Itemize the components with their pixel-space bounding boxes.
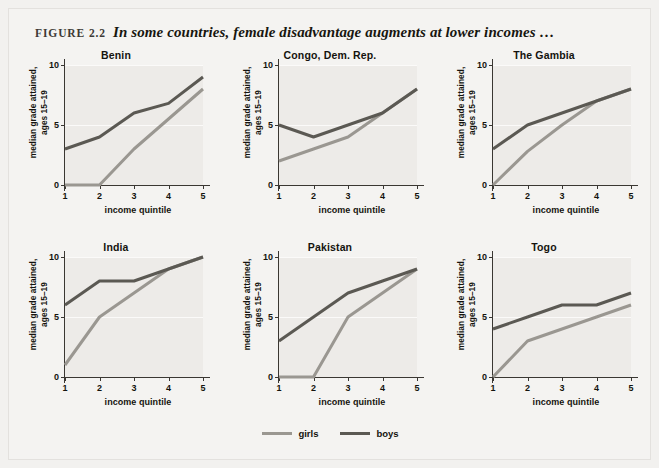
y-axis-title-line1: median grade attained, bbox=[242, 67, 252, 158]
series-line-boys bbox=[493, 89, 631, 149]
x-tick-label: 5 bbox=[414, 383, 419, 393]
plot-area: 051012345 bbox=[493, 65, 631, 185]
x-tick-label: 1 bbox=[62, 191, 67, 201]
x-tick-mark bbox=[597, 185, 598, 189]
x-tick-mark bbox=[597, 377, 598, 381]
x-tick-label: 2 bbox=[525, 383, 530, 393]
x-tick-mark bbox=[417, 185, 418, 189]
figure-card: FIGURE 2.2In some countries, female disa… bbox=[8, 8, 651, 460]
plot-area: 051012345 bbox=[65, 65, 203, 185]
legend-swatch-girls bbox=[262, 432, 292, 435]
x-axis-line bbox=[278, 185, 424, 186]
series-line-boys bbox=[65, 77, 203, 149]
x-tick-label: 5 bbox=[200, 383, 205, 393]
y-axis-title: median grade attained,ages 15–19 bbox=[456, 250, 477, 360]
x-tick-label: 3 bbox=[131, 191, 136, 201]
x-tick-label: 4 bbox=[594, 383, 599, 393]
series-line-boys bbox=[279, 269, 417, 341]
y-tick-label: 10 bbox=[477, 60, 487, 70]
y-tick-label: 0 bbox=[482, 180, 487, 190]
x-axis-line bbox=[492, 185, 638, 186]
y-tick-label: 5 bbox=[482, 120, 487, 130]
y-axis-title: median grade attained,ages 15–19 bbox=[242, 58, 263, 168]
x-tick-label: 3 bbox=[559, 191, 564, 201]
x-axis-title: income quintile bbox=[65, 205, 211, 215]
x-tick-label: 1 bbox=[490, 191, 495, 201]
y-axis-title-line1: median grade attained, bbox=[242, 259, 252, 350]
x-tick-label: 2 bbox=[311, 191, 316, 201]
series-line-boys bbox=[279, 89, 417, 137]
series-layer bbox=[279, 65, 417, 185]
x-tick-mark bbox=[562, 377, 563, 381]
y-axis-title-line2: ages 15–19 bbox=[38, 90, 48, 135]
y-tick-label: 5 bbox=[268, 120, 273, 130]
y-axis-title: median grade attained,ages 15–19 bbox=[28, 250, 49, 360]
y-axis-title: median grade attained,ages 15–19 bbox=[456, 58, 477, 168]
y-axis-title-line2: ages 15–19 bbox=[38, 282, 48, 327]
y-axis-title-line2: ages 15–19 bbox=[466, 90, 476, 135]
x-tick-mark bbox=[631, 377, 632, 381]
y-tick-label: 5 bbox=[482, 312, 487, 322]
y-tick-label: 0 bbox=[268, 372, 273, 382]
x-tick-mark bbox=[528, 185, 529, 189]
x-tick-label: 1 bbox=[276, 383, 281, 393]
x-tick-label: 5 bbox=[628, 383, 633, 393]
series-line-girls bbox=[65, 257, 203, 365]
y-axis-title: median grade attained,ages 15–19 bbox=[28, 58, 49, 168]
x-tick-mark bbox=[417, 377, 418, 381]
chart-panel-benin: Beninmedian grade attained,ages 15–19051… bbox=[9, 47, 223, 237]
legend-label: boys bbox=[376, 428, 398, 439]
x-tick-mark bbox=[383, 377, 384, 381]
x-tick-label: 3 bbox=[345, 383, 350, 393]
x-tick-label: 4 bbox=[380, 383, 385, 393]
panel-grid: Beninmedian grade attained,ages 15–19051… bbox=[9, 47, 652, 429]
x-axis-title: income quintile bbox=[279, 205, 425, 215]
x-tick-label: 5 bbox=[200, 191, 205, 201]
x-tick-label: 5 bbox=[414, 191, 419, 201]
series-layer bbox=[279, 257, 417, 377]
x-axis-title: income quintile bbox=[493, 397, 639, 407]
x-tick-mark bbox=[203, 185, 204, 189]
x-tick-label: 4 bbox=[166, 383, 171, 393]
legend-swatch-boys bbox=[340, 432, 370, 435]
y-tick-label: 10 bbox=[263, 60, 273, 70]
series-layer bbox=[65, 65, 203, 185]
x-tick-label: 2 bbox=[311, 383, 316, 393]
y-tick-label: 0 bbox=[54, 372, 59, 382]
chart-panel-togo: Togomedian grade attained,ages 15–190510… bbox=[437, 239, 651, 429]
x-tick-mark bbox=[348, 185, 349, 189]
y-axis-title-line1: median grade attained, bbox=[28, 67, 38, 158]
x-tick-label: 2 bbox=[97, 383, 102, 393]
x-axis-line bbox=[64, 377, 210, 378]
x-tick-label: 1 bbox=[490, 383, 495, 393]
y-tick-label: 10 bbox=[49, 60, 59, 70]
chart-panel-the-gambia: The Gambiamedian grade attained,ages 15–… bbox=[437, 47, 651, 237]
x-tick-mark bbox=[348, 377, 349, 381]
legend-item-boys: boys bbox=[340, 428, 398, 439]
legend-label: girls bbox=[298, 428, 318, 439]
x-tick-label: 3 bbox=[131, 383, 136, 393]
figure-title: In some countries, female disadvantage a… bbox=[113, 24, 555, 40]
chart-panel-congo-dem-rep: Congo, Dem. Rep.median grade attained,ag… bbox=[223, 47, 437, 237]
x-tick-mark bbox=[134, 185, 135, 189]
y-tick-label: 10 bbox=[263, 252, 273, 262]
y-axis-title-line1: median grade attained, bbox=[28, 259, 38, 350]
x-tick-mark bbox=[169, 185, 170, 189]
series-line-girls bbox=[493, 305, 631, 377]
x-tick-mark bbox=[314, 185, 315, 189]
y-axis-title-line2: ages 15–19 bbox=[252, 282, 262, 327]
y-axis-title-line2: ages 15–19 bbox=[252, 90, 262, 135]
x-tick-label: 1 bbox=[62, 383, 67, 393]
figure-caption: FIGURE 2.2In some countries, female disa… bbox=[35, 23, 555, 41]
series-layer bbox=[65, 257, 203, 377]
y-axis-title-line1: median grade attained, bbox=[456, 67, 466, 158]
y-tick-label: 10 bbox=[477, 252, 487, 262]
x-tick-mark bbox=[100, 377, 101, 381]
x-tick-label: 2 bbox=[525, 191, 530, 201]
x-axis-title: income quintile bbox=[279, 397, 425, 407]
y-axis-title-line2: ages 15–19 bbox=[466, 282, 476, 327]
plot-area: 051012345 bbox=[65, 257, 203, 377]
chart-legend: girlsboys bbox=[9, 428, 652, 439]
x-tick-label: 3 bbox=[345, 191, 350, 201]
series-line-girls bbox=[279, 269, 417, 377]
